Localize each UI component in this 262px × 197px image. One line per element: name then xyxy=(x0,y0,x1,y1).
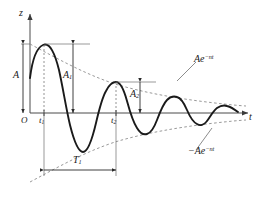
envelope-upper-base: Ae xyxy=(194,53,205,64)
amplitude-A1-subscript: 1 xyxy=(69,73,72,80)
axis-label-t: t xyxy=(249,112,252,122)
amplitude-label-A: A xyxy=(13,70,19,80)
period-label-T1: T1 xyxy=(73,155,82,166)
time-label-t1: t1 xyxy=(39,116,44,126)
time-label-t2: t2 xyxy=(111,116,116,126)
amplitude-A2-subscript: 2 xyxy=(136,92,139,99)
envelope-label-lower: −Ae−nt xyxy=(188,146,214,156)
amplitude-label-A2: A2 xyxy=(130,89,139,100)
origin-label: O xyxy=(21,116,28,125)
leader-upper-label xyxy=(177,62,196,81)
label-leaders xyxy=(177,62,212,150)
time-t2-subscript: 2 xyxy=(114,119,117,125)
envelope-lower-base: −Ae xyxy=(188,145,205,156)
envelope-lower-exponent: −nt xyxy=(205,145,214,152)
period-T1-subscript: 1 xyxy=(79,158,82,165)
figure-canvas: z t O A A1 A2 t1 t2 T1 Ae−nt −Ae−nt xyxy=(0,0,262,197)
envelope-upper-exponent: −nt xyxy=(205,53,214,60)
dimension-T1 xyxy=(44,113,116,176)
amplitude-label-A1: A1 xyxy=(63,70,72,81)
envelope-label-upper: Ae−nt xyxy=(194,54,214,64)
time-t1-subscript: 1 xyxy=(42,119,45,125)
axis-label-z: z xyxy=(19,8,23,18)
